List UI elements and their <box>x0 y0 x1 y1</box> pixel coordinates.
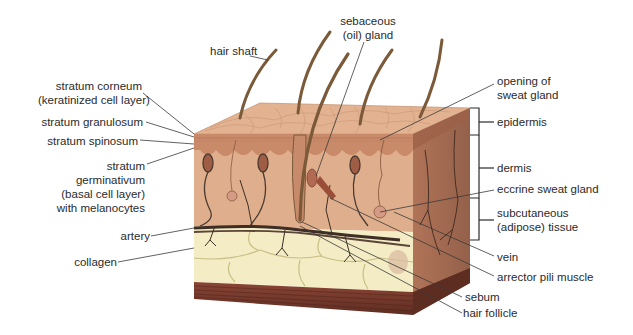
label-stratum-spinosum: stratum spinosum <box>20 134 138 148</box>
label-collagen: collagen <box>50 255 117 269</box>
label-subcutaneous-tissue: subcutaneous (adipose) tissue <box>497 206 578 234</box>
label-artery: artery <box>80 229 150 243</box>
label-sebaceous-gland: sebaceous (oil) gland <box>336 14 400 42</box>
label-line: with melanocytes <box>30 201 145 215</box>
label-epidermis: epidermis <box>497 115 547 129</box>
label-line: (basal cell layer) <box>30 187 145 201</box>
label-line: opening of <box>497 74 558 88</box>
label-hair-shaft: hair shaft <box>210 44 257 58</box>
label-arrector-pili-muscle: arrector pili muscle <box>497 270 594 284</box>
label-line: germinativum <box>30 173 145 187</box>
label-line: (oil) gland <box>336 28 400 42</box>
label-eccrine-sweat-gland: eccrine sweat gland <box>497 182 599 196</box>
label-line: stratum corneum <box>38 79 142 93</box>
label-line: subcutaneous <box>497 206 578 220</box>
label-stratum-granulosum: stratum granulosum <box>20 115 143 129</box>
label-sebum: sebum <box>465 290 500 304</box>
label-dermis: dermis <box>497 161 532 175</box>
label-stratum-germinativum: stratum germinativum (basal cell layer) … <box>30 159 145 215</box>
label-opening-of-sweat-gland: opening of sweat gland <box>497 74 558 102</box>
label-line: sebaceous <box>336 14 400 28</box>
label-hair-follicle: hair follicle <box>463 306 517 320</box>
label-line: stratum <box>30 159 145 173</box>
label-stratum-corneum: stratum corneum (keratinized cell layer) <box>38 79 142 107</box>
label-line: sweat gland <box>497 88 558 102</box>
label-line: (adipose) tissue <box>497 220 578 234</box>
skin-diagram: stratum corneum (keratinized cell layer)… <box>0 0 633 335</box>
label-line: (keratinized cell layer) <box>38 93 142 107</box>
label-vein: vein <box>497 250 518 264</box>
layer-brackets <box>470 108 494 240</box>
